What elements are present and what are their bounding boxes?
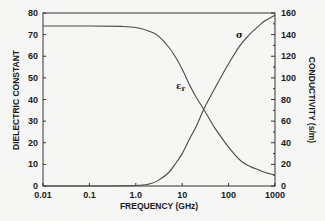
y2-tick-label: 80 — [281, 95, 291, 105]
y-tick-label: 10 — [28, 159, 38, 169]
y2-tick-label: 120 — [281, 51, 296, 61]
x-tick-label: 10 — [177, 190, 187, 200]
y2-tick-label: 40 — [281, 138, 291, 148]
x-tick-label: 1.0 — [130, 190, 143, 200]
y2-tick-label: 60 — [281, 116, 291, 126]
y2-tick-label: 140 — [281, 30, 296, 40]
x-tick-label: 0.1 — [83, 190, 96, 200]
left-y-axis-title: DIELECTRIC CONSTANT — [11, 49, 21, 150]
chart: 0.010.11.0101001000 01020304050607080 02… — [0, 0, 325, 221]
x-tick-label: 100 — [221, 190, 236, 200]
y-tick-label: 50 — [28, 73, 38, 83]
right-y-axis-title: CONDUCTIVITY (s/m) — [307, 57, 317, 143]
x-axis-title: FREQUENCY (GHz) — [120, 201, 198, 211]
y-tick-label: 60 — [28, 51, 38, 61]
y-tick-label: 80 — [28, 8, 38, 18]
y-tick-label: 30 — [28, 116, 38, 126]
y2-tick-label: 20 — [281, 159, 291, 169]
dielectric-constant-curve — [43, 26, 275, 175]
x-tick-label: 0.01 — [34, 190, 52, 200]
y-tick-label: 20 — [28, 138, 38, 148]
sigma-curve-label: σ — [236, 30, 243, 40]
y2-tick-label: 100 — [281, 73, 296, 83]
y-tick-label: 40 — [28, 95, 38, 105]
x-tick-label: 1000 — [265, 190, 285, 200]
y-tick-label: 70 — [28, 30, 38, 40]
y-tick-label: 0 — [33, 181, 38, 191]
eps-curve-label: εr — [176, 81, 185, 93]
y2-tick-label: 0 — [281, 181, 286, 191]
y2-tick-label: 160 — [281, 8, 296, 18]
